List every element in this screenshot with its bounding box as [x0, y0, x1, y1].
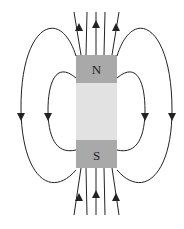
arrow-down-icon — [17, 113, 25, 121]
bar-magnet: N S — [76, 55, 117, 168]
magnet-middle — [76, 83, 117, 140]
north-label: N — [92, 62, 102, 77]
south-label: S — [93, 148, 100, 163]
magnet-field-diagram: N S — [0, 0, 184, 229]
field-line — [74, 12, 81, 55]
